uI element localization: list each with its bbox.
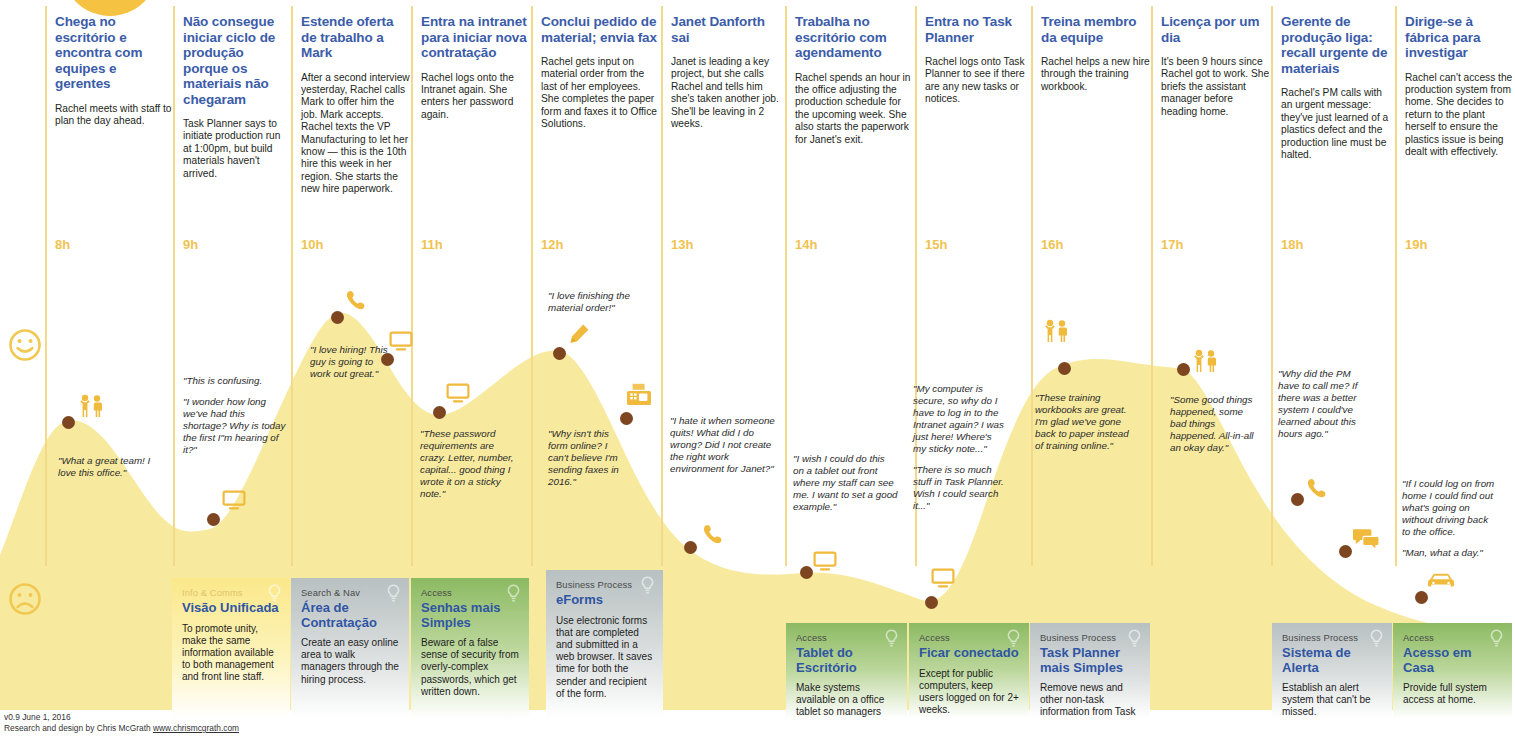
stage-description: Rachel spends an hour in the office adju… bbox=[795, 72, 915, 146]
stage-description: Janet is leading a key project, but she … bbox=[671, 56, 786, 130]
quote-6: "Why isn't this form online? I can't bel… bbox=[548, 428, 628, 488]
touchpoint-dot-9[interactable] bbox=[800, 566, 813, 579]
touchpoint-dot-12[interactable] bbox=[1177, 363, 1190, 376]
touchpoint-dot-7[interactable] bbox=[620, 412, 633, 425]
opportunity-category: Business Process bbox=[556, 579, 653, 590]
hour-label-12h: 12h bbox=[541, 237, 563, 252]
lightbulb-icon bbox=[640, 576, 655, 595]
opportunity-description: Except for public computers, keep users … bbox=[919, 668, 1019, 717]
quote-10: "These training workbooks are great. I'm… bbox=[1035, 392, 1138, 452]
quote-5: "I love finishing the material order!" bbox=[548, 290, 658, 314]
touchpoint-dot-11[interactable] bbox=[1058, 362, 1071, 375]
opportunity-card-5[interactable]: AccessTablet do EscritórioMake systems a… bbox=[786, 623, 907, 718]
chat-icon bbox=[1353, 528, 1379, 550]
footer-credits: v0.9 June 1, 2016 Research and design by… bbox=[4, 712, 239, 734]
opportunity-card-2[interactable]: Search & NavÁrea de ContrataçãoCreate an… bbox=[291, 578, 409, 718]
footer-author-text: Research and design by Chris McGrath bbox=[4, 723, 151, 733]
opportunity-description: Provide full system access at home. bbox=[1403, 682, 1502, 706]
lightbulb-icon bbox=[386, 584, 401, 603]
touchpoint-dot-15[interactable] bbox=[1415, 591, 1428, 604]
people-icon bbox=[1192, 349, 1218, 373]
footer-author: Research and design by Chris McGrath www… bbox=[4, 723, 239, 734]
hour-label-13h: 13h bbox=[671, 237, 693, 252]
touchpoint-dot-2[interactable] bbox=[207, 513, 220, 526]
touchpoint-dot-10[interactable] bbox=[925, 596, 938, 609]
hour-gridline-8h bbox=[45, 6, 47, 566]
hour-gridline-11h bbox=[411, 6, 413, 566]
opportunity-card-9[interactable]: AccessAcesso em CasaProvide full system … bbox=[1393, 623, 1512, 718]
touchpoint-dot-13[interactable] bbox=[1291, 493, 1304, 506]
hour-gridline-18h bbox=[1271, 6, 1273, 566]
stage-title: Entra na intranet para iniciar nova cont… bbox=[421, 14, 531, 61]
lightbulb-icon bbox=[1006, 629, 1021, 648]
lightbulb-icon bbox=[1489, 629, 1504, 648]
fax-icon bbox=[627, 383, 651, 405]
opportunity-description: Beware of a false sense of security from… bbox=[421, 637, 519, 698]
touchpoint-dot-14[interactable] bbox=[1339, 545, 1352, 558]
opportunity-card-6[interactable]: AccessFicar conectadoExcept for public c… bbox=[909, 623, 1029, 718]
opportunity-card-3[interactable]: AccessSenhas mais SimplesBeware of a fal… bbox=[411, 578, 529, 718]
stage-title: Janet Danforth sai bbox=[671, 14, 786, 45]
opportunity-title: Tablet do Escritório bbox=[796, 646, 897, 675]
quote-text: "My computer is secure, so why do I have… bbox=[913, 383, 1005, 455]
hour-gridline-17h bbox=[1151, 6, 1153, 566]
quote-13: "If I could log on from home I could fin… bbox=[1402, 478, 1498, 559]
phone-icon bbox=[345, 289, 367, 311]
stage-description: Rachel logs onto the Intranet again. She… bbox=[421, 72, 531, 122]
lightbulb-icon bbox=[1369, 629, 1384, 648]
footer-version: v0.9 June 1, 2016 bbox=[4, 712, 239, 723]
lightbulb-icon bbox=[267, 584, 282, 603]
stage-title: Estende oferta de trabalho a Mark bbox=[301, 14, 411, 61]
quote-text: "I love hiring! This guy is going to wor… bbox=[310, 344, 388, 380]
car-icon bbox=[1428, 573, 1454, 589]
stage-title: Entra no Task Planner bbox=[925, 14, 1031, 45]
hour-gridline-10h bbox=[291, 6, 293, 566]
touchpoint-dot-1[interactable] bbox=[62, 416, 75, 429]
people-icon bbox=[1043, 319, 1069, 343]
stage-description: Rachel meets with staff to plan the day … bbox=[55, 103, 173, 128]
hour-gridline-12h bbox=[531, 6, 533, 566]
stage-title: Trabalha no escritório com agendamento bbox=[795, 14, 915, 61]
opportunity-card-8[interactable]: Business ProcessSistema de AlertaEstabli… bbox=[1272, 623, 1392, 718]
touchpoint-dot-8[interactable] bbox=[684, 541, 697, 554]
quote-text: "If I could log on from home I could fin… bbox=[1402, 478, 1498, 538]
stage-title: Treina membro da equipe bbox=[1041, 14, 1151, 45]
opportunity-category: Info & Comms bbox=[182, 587, 280, 598]
quote-text: "What a great team! I love this office." bbox=[58, 455, 158, 479]
quote-text: "There is so much stuff in Task Planner.… bbox=[913, 464, 1005, 512]
opportunity-title: Senhas mais Simples bbox=[421, 601, 519, 630]
opportunity-title: Task Planner mais Simples bbox=[1040, 646, 1140, 675]
sad-face-icon bbox=[8, 582, 42, 616]
stage-column-10h: Estende oferta de trabalho a MarkAfter a… bbox=[301, 14, 411, 196]
touchpoint-dot-4[interactable] bbox=[381, 353, 394, 366]
stage-column-16h: Treina membro da equipeRachel helps a ne… bbox=[1041, 14, 1151, 93]
hour-gridline-13h bbox=[661, 6, 663, 566]
phone-icon bbox=[702, 523, 724, 545]
stage-column-13h: Janet Danforth saiJanet is leading a key… bbox=[671, 14, 786, 130]
stage-description: Rachel logs onto Task Planner to see if … bbox=[925, 56, 1031, 106]
stage-description: Rachel's PM calls with an urgent message… bbox=[1281, 87, 1395, 161]
opportunity-card-4[interactable]: Business ProcesseFormsUse electronic for… bbox=[546, 570, 663, 718]
touchpoint-dot-3[interactable] bbox=[331, 311, 344, 324]
stage-column-14h: Trabalha no escritório com agendamentoRa… bbox=[795, 14, 915, 146]
stage-title: Licença por um dia bbox=[1161, 14, 1271, 45]
opportunity-title: Ficar conectado bbox=[919, 646, 1019, 661]
opportunity-description: Make systems available on a office table… bbox=[796, 682, 897, 718]
opportunity-card-7[interactable]: Business ProcessTask Planner mais Simple… bbox=[1030, 623, 1150, 718]
touchpoint-dot-5[interactable] bbox=[433, 406, 446, 419]
hour-gridline-9h bbox=[173, 6, 175, 566]
stage-description: It's been 9 hours since Rachel got to wo… bbox=[1161, 56, 1271, 118]
stage-title: Conclui pedido de material; envia fax bbox=[541, 14, 661, 45]
quote-text: "I love finishing the material order!" bbox=[548, 290, 658, 314]
opportunity-card-1[interactable]: Info & CommsVisão UnificadaTo promote un… bbox=[172, 578, 290, 718]
quote-text: "This is confusing. bbox=[183, 375, 287, 387]
quote-9: "My computer is secure, so why do I have… bbox=[913, 383, 1005, 512]
opportunity-title: Área de Contratação bbox=[301, 601, 399, 630]
hour-label-8h: 8h bbox=[55, 237, 70, 252]
lightbulb-icon bbox=[506, 584, 521, 603]
quote-text: "I wonder how long we've had this shorta… bbox=[183, 396, 287, 456]
footer-website-link[interactable]: www.chrismcgrath.com bbox=[153, 723, 239, 733]
stage-title: Chega no escritório e encontra com equip… bbox=[55, 14, 173, 92]
touchpoint-dot-6[interactable] bbox=[553, 347, 566, 360]
